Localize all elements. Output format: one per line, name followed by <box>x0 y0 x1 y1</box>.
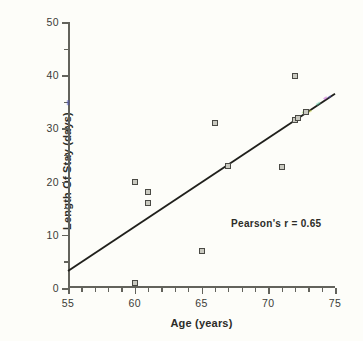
y-tick-label: 0 <box>53 282 59 294</box>
x-tick-minor <box>95 288 96 292</box>
data-point <box>212 120 218 126</box>
x-tick-minor <box>228 288 229 292</box>
x-tick-minor <box>215 288 216 292</box>
x-tick-label: 65 <box>195 297 207 309</box>
data-point <box>145 189 151 195</box>
x-tick-minor <box>282 288 283 292</box>
data-point <box>225 163 231 169</box>
x-tick-label: 60 <box>129 297 141 309</box>
x-tick-major <box>135 288 137 294</box>
x-tick-minor <box>308 288 309 292</box>
x-tick-major <box>202 288 204 294</box>
scatter-plot-figure: Length Of Stay (days) 01020304050 556065… <box>0 0 363 341</box>
x-tick-minor <box>255 288 256 292</box>
data-point <box>132 280 138 286</box>
x-tick-minor <box>188 288 189 292</box>
y-axis-artifact <box>67 100 70 105</box>
data-point <box>145 200 151 206</box>
pearson-r-annotation: Pearson's r = 0.65 <box>231 218 321 229</box>
x-tick-minor <box>242 288 243 292</box>
x-tick-minor <box>175 288 176 292</box>
x-tick-minor <box>161 288 162 292</box>
data-point <box>292 73 298 79</box>
y-tick-label: 10 <box>47 229 59 241</box>
y-tick-label: 30 <box>47 122 59 134</box>
data-point <box>295 115 301 121</box>
data-point <box>303 109 309 115</box>
y-tick-label: 50 <box>47 16 59 28</box>
x-tick-label: 75 <box>329 297 341 309</box>
x-tick-minor <box>81 288 82 292</box>
x-axis-title: Age (years) <box>68 317 335 329</box>
x-tick-minor <box>108 288 109 292</box>
x-tick-minor <box>322 288 323 292</box>
x-tick-label: 70 <box>262 297 274 309</box>
x-tick-label: 55 <box>62 297 74 309</box>
x-tick-major <box>268 288 270 294</box>
x-tick-minor <box>295 288 296 292</box>
x-tick-major <box>335 288 337 294</box>
data-point <box>199 248 205 254</box>
plot-area: 01020304050 5560657075 Pearson's r = 0.6… <box>68 22 335 288</box>
x-tick-major <box>68 288 70 294</box>
data-point <box>132 179 138 185</box>
y-tick-label: 40 <box>47 69 59 81</box>
data-point <box>279 164 285 170</box>
x-tick-minor <box>121 288 122 292</box>
x-tick-minor <box>148 288 149 292</box>
y-tick-label: 20 <box>47 176 59 188</box>
